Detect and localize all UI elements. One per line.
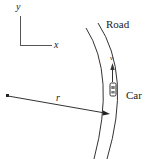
coordinate-axes: y x: [15, 1, 59, 50]
circular-motion-diagram: y x Road v Car r: [0, 0, 167, 159]
y-axis-label: y: [15, 1, 21, 12]
velocity-vector: v: [110, 54, 115, 82]
road-label: Road: [106, 18, 130, 30]
car-icon: [110, 83, 116, 96]
x-axis-label: x: [53, 39, 59, 50]
road: Road: [86, 18, 130, 159]
radius-vector: r: [6, 92, 110, 116]
car-label: Car: [126, 89, 142, 101]
radius-label: r: [56, 92, 60, 103]
